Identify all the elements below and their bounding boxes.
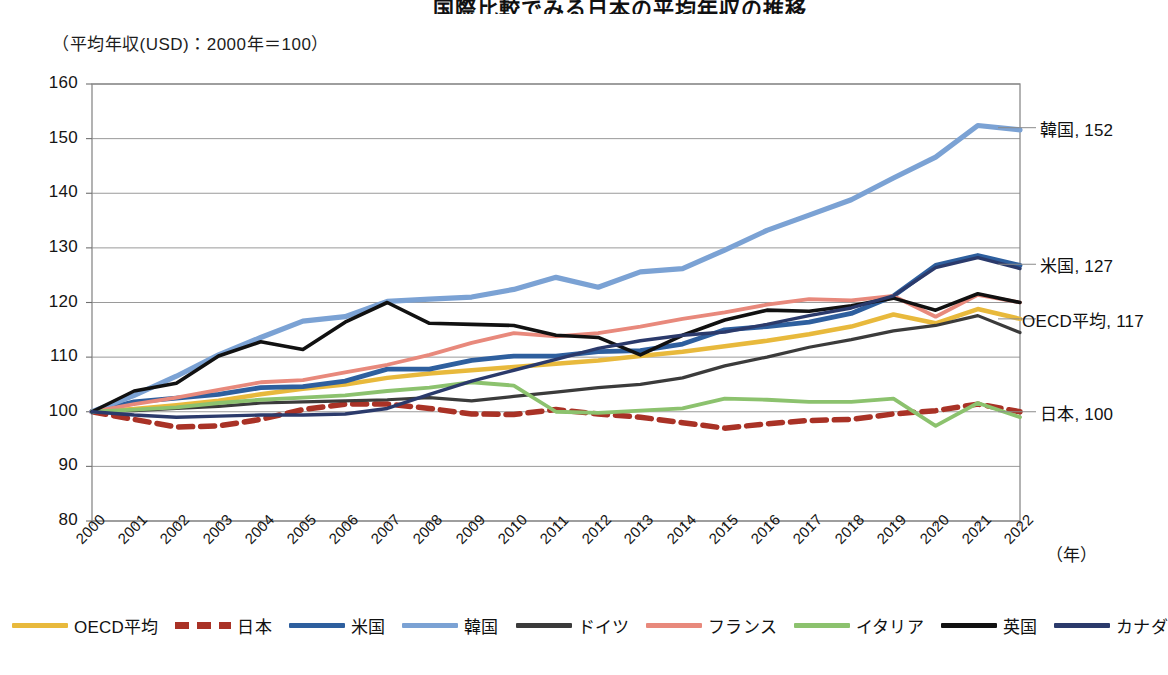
- legend-swatch-icon: [12, 623, 68, 628]
- y-axis-tick-label: 130: [30, 237, 78, 257]
- legend-swatch-icon: [402, 623, 458, 628]
- y-axis-tick-label: 110: [30, 346, 78, 366]
- legend-label: フランス: [708, 613, 777, 638]
- legend-swatch-icon: [1054, 623, 1110, 628]
- x-axis-unit-label: （年）: [1046, 541, 1097, 566]
- legend-swatch-icon: [794, 623, 850, 628]
- legend-swatch-icon: [646, 623, 702, 628]
- legend-item-韓国[interactable]: 韓国: [402, 613, 498, 638]
- series-end-label-日本: 日本, 100: [1040, 400, 1113, 425]
- chart-leader-lines: [998, 128, 1036, 412]
- y-axis-tick-label: 160: [30, 73, 78, 93]
- series-line-韓国: [92, 126, 1020, 412]
- legend-item-英国[interactable]: 英国: [941, 613, 1037, 638]
- legend-item-米国[interactable]: 米国: [289, 613, 385, 638]
- chart-y-tickmarks: [86, 84, 92, 521]
- legend-label: イタリア: [856, 613, 924, 638]
- chart-legend: OECD平均日本米国韓国ドイツフランスイタリア英国カナダ: [60, 608, 1120, 642]
- y-axis-tick-label: 90: [30, 455, 78, 475]
- y-axis-tick-label: 80: [30, 510, 78, 530]
- legend-item-日本[interactable]: 日本: [175, 613, 271, 638]
- legend-swatch-icon: [289, 623, 345, 628]
- legend-label: 日本: [237, 613, 271, 638]
- legend-swatch-icon: [516, 623, 572, 628]
- chart-series-lines: [92, 126, 1020, 429]
- legend-item-ドイツ[interactable]: ドイツ: [516, 613, 630, 638]
- legend-item-カナダ[interactable]: カナダ: [1054, 613, 1168, 638]
- legend-label: 韓国: [464, 613, 498, 638]
- legend-item-OECD平均[interactable]: OECD平均: [12, 613, 158, 638]
- legend-label: 英国: [1003, 613, 1037, 638]
- legend-label: ドイツ: [578, 613, 630, 638]
- legend-label: OECD平均: [74, 613, 158, 638]
- legend-swatch-icon: [941, 623, 997, 628]
- legend-swatch-icon: [175, 622, 231, 629]
- legend-label: 米国: [351, 613, 385, 638]
- legend-label: カナダ: [1116, 613, 1168, 638]
- y-axis-tick-label: 150: [30, 128, 78, 148]
- series-end-label-米国: 米国, 127: [1040, 252, 1113, 277]
- legend-item-フランス[interactable]: フランス: [646, 613, 777, 638]
- y-axis-tick-label: 140: [30, 182, 78, 202]
- series-end-label-韓国: 韓国, 152: [1040, 116, 1113, 141]
- y-axis-tick-label: 100: [30, 401, 78, 421]
- y-axis-tick-label: 120: [30, 292, 78, 312]
- legend-item-イタリア[interactable]: イタリア: [794, 613, 924, 638]
- series-end-label-OECD平均: OECD平均, 117: [1022, 307, 1144, 332]
